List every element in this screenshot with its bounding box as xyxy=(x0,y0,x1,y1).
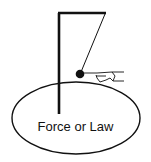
pendulum-string xyxy=(81,14,105,72)
force-or-law-label: Force or Law xyxy=(0,119,151,135)
pushing-hand-icon xyxy=(84,72,124,82)
force-or-law-ellipse xyxy=(12,82,140,154)
pendulum-bob xyxy=(76,70,85,79)
diagram-canvas xyxy=(0,0,151,162)
diagram: Force or Law xyxy=(0,0,151,162)
